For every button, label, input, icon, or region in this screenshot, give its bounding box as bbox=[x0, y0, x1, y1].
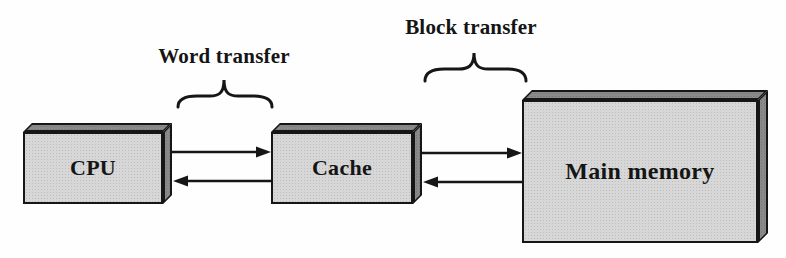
cache-to-cpu-arrow-icon bbox=[173, 176, 272, 187]
cpu-box-front-face: CPU bbox=[23, 132, 163, 204]
main-memory-label: Main memory bbox=[565, 158, 714, 185]
main-memory-box-top-face bbox=[522, 90, 768, 100]
main-memory-box-front-face: Main memory bbox=[522, 100, 758, 243]
cache-to-memory-arrow-icon bbox=[421, 148, 522, 159]
cpu-box-side-face bbox=[163, 123, 172, 204]
cache-box-top-face bbox=[271, 123, 422, 132]
block-transfer-brace-icon bbox=[425, 53, 526, 81]
cache-box-side-face bbox=[413, 123, 422, 204]
cpu-box-top-face bbox=[23, 123, 172, 132]
cpu-to-cache-arrow-icon bbox=[170, 147, 271, 158]
word-transfer-label: Word transfer bbox=[158, 44, 290, 69]
cpu-label: CPU bbox=[70, 155, 116, 181]
word-transfer-brace-icon bbox=[178, 80, 272, 107]
main-memory-box-side-face bbox=[758, 90, 768, 243]
memory-to-cache-arrow-icon bbox=[423, 177, 523, 188]
block-transfer-label: Block transfer bbox=[405, 15, 537, 40]
diagram-canvas: Word transfer Block transfer CPU Cache M… bbox=[0, 0, 786, 258]
cache-box-front-face: Cache bbox=[271, 132, 413, 204]
cache-label: Cache bbox=[312, 155, 372, 181]
